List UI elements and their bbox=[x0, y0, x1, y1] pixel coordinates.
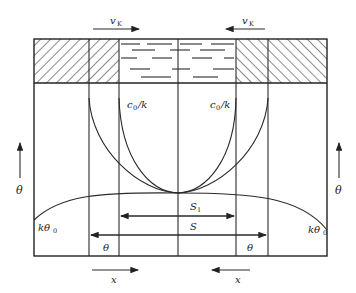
theta-zone-label-left: θ bbox=[103, 242, 109, 253]
theta-axis-left: θ bbox=[16, 143, 23, 197]
conc-label-right: c 0 /k bbox=[210, 99, 230, 112]
x-arrow-right: x bbox=[212, 270, 250, 285]
svg-text:x: x bbox=[111, 274, 117, 285]
theta-axis-right: θ bbox=[335, 143, 342, 197]
svg-text:θ: θ bbox=[16, 184, 23, 197]
zone-melting-diagram: v K v K c 0 /k bbox=[0, 0, 356, 293]
theta-zone-label-right: θ bbox=[247, 242, 253, 253]
velocity-sub-left: K bbox=[117, 20, 122, 28]
k-theta-label-left: kθ 0 bbox=[38, 222, 57, 235]
svg-text:0: 0 bbox=[53, 227, 57, 235]
conc-label-left: c 0 /k bbox=[127, 99, 147, 112]
svg-text:θ: θ bbox=[335, 184, 342, 197]
svg-text:0: 0 bbox=[216, 104, 220, 112]
temperature-curve bbox=[34, 193, 327, 230]
velocity-arrow-left: v K bbox=[93, 15, 139, 29]
svg-text:/k: /k bbox=[137, 99, 147, 110]
solid-region-left bbox=[34, 39, 119, 83]
svg-text:S: S bbox=[190, 221, 197, 232]
velocity-label-left: v bbox=[110, 15, 116, 26]
svg-text:/k: /k bbox=[220, 99, 230, 110]
svg-text:kθ: kθ bbox=[38, 222, 50, 233]
svg-text:0: 0 bbox=[133, 104, 137, 112]
solid-region-right bbox=[236, 39, 327, 83]
svg-text:1: 1 bbox=[197, 206, 201, 214]
velocity-arrow-right: v K bbox=[226, 15, 265, 29]
svg-text:S: S bbox=[190, 201, 197, 212]
x-arrow-left: x bbox=[92, 270, 138, 285]
svg-text:x: x bbox=[235, 274, 241, 285]
svg-text:kθ: kθ bbox=[308, 224, 320, 235]
svg-text:0: 0 bbox=[323, 229, 327, 237]
velocity-label-right: v bbox=[242, 15, 248, 26]
velocity-sub-right: K bbox=[249, 20, 254, 28]
